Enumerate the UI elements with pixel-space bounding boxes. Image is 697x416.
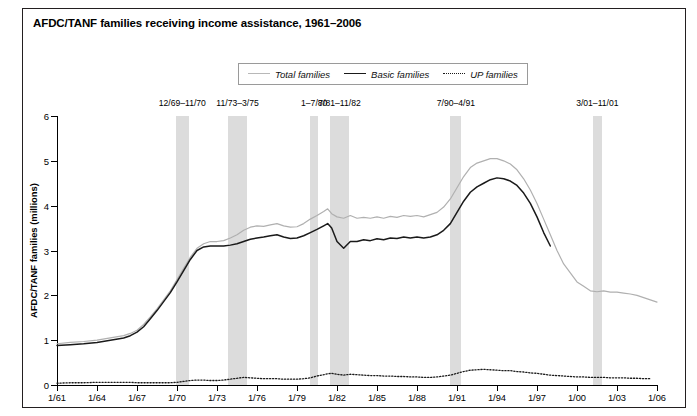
page-title: AFDC/TANF families receiving income assi… (33, 17, 361, 29)
line-swatch-icon (344, 70, 366, 78)
y-tick-label: 5 (0, 161, 57, 172)
x-tick-mark (497, 385, 498, 391)
x-tick-label: 1/03 (608, 393, 626, 403)
dotted-line-swatch-icon (443, 70, 465, 78)
x-tick-label: 1/85 (368, 393, 386, 403)
x-tick-label: 1/64 (88, 393, 106, 403)
x-tick-mark (217, 385, 218, 391)
x-tick-label: 1/91 (448, 393, 466, 403)
line-swatch-icon (248, 70, 270, 78)
legend-item-total: Total families (248, 69, 330, 80)
series-line-basic-families (57, 178, 550, 346)
y-tick-label: 6 (0, 116, 57, 127)
x-tick-label: 1/61 (48, 393, 66, 403)
series-line-total-families (57, 159, 657, 344)
x-tick-label: 1/73 (208, 393, 226, 403)
legend-item-basic: Basic families (344, 69, 429, 80)
legend-label: UP families (470, 69, 518, 80)
recession-band-label: 7/90–4/91 (437, 98, 475, 108)
x-tick-mark (457, 385, 458, 391)
y-tick-label: 4 (0, 206, 57, 217)
x-axis-line (57, 385, 657, 386)
x-tick-mark (617, 385, 618, 391)
y-tick-label: 2 (0, 295, 57, 306)
legend-label: Total families (275, 69, 330, 80)
x-tick-label: 1/67 (128, 393, 146, 403)
y-tick-label: 3 (0, 251, 57, 262)
x-tick-mark (137, 385, 138, 391)
series-lines (57, 116, 657, 385)
recession-band-label: 12/69–11/70 (159, 98, 206, 108)
x-tick-label: 1/06 (648, 393, 666, 403)
x-tick-mark (377, 385, 378, 391)
plot-area (57, 116, 657, 385)
x-tick-mark (657, 385, 658, 391)
x-tick-mark (417, 385, 418, 391)
recession-band-label: 7/81–11/82 (318, 98, 360, 108)
x-tick-label: 1/00 (568, 393, 586, 403)
chart-page: AFDC/TANF families receiving income assi… (0, 0, 697, 416)
x-tick-label: 1/70 (168, 393, 186, 403)
x-tick-label: 1/88 (408, 393, 426, 403)
x-tick-label: 1/97 (528, 393, 546, 403)
legend-label: Basic families (371, 69, 429, 80)
x-tick-mark (97, 385, 98, 391)
series-line-up-families (57, 369, 650, 383)
y-tick-label: 1 (0, 340, 57, 351)
x-tick-mark (297, 385, 298, 391)
x-tick-label: 1/82 (328, 393, 346, 403)
legend-item-up: UP families (443, 69, 518, 80)
x-tick-label: 1/76 (248, 393, 266, 403)
x-tick-label: 1/79 (288, 393, 306, 403)
x-tick-mark (257, 385, 258, 391)
x-tick-mark (337, 385, 338, 391)
chart-legend: Total families Basic families UP familie… (238, 63, 528, 85)
x-tick-label: 1/94 (488, 393, 506, 403)
x-tick-mark (177, 385, 178, 391)
recession-band-label: 3/01–11/01 (576, 98, 618, 108)
x-tick-mark (57, 385, 58, 391)
recession-band-label: 11/73–3/75 (216, 98, 258, 108)
x-tick-mark (577, 385, 578, 391)
x-tick-mark (537, 385, 538, 391)
